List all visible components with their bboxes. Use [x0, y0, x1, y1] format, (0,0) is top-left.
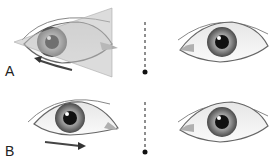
fixation-dot: [143, 150, 148, 155]
arrow-right-icon: [78, 142, 86, 150]
panel-b-left-eye: [28, 100, 118, 150]
fixation-dot: [143, 70, 148, 75]
panel-a-left-eye: [14, 8, 118, 77]
panel-a-right-eye: [178, 22, 268, 62]
panel-b-right-eye: [178, 102, 268, 142]
midline-b: [143, 102, 148, 155]
eye-movement-diagram: [0, 0, 276, 163]
panel-label-b: B: [5, 144, 14, 158]
panel-label-a: A: [5, 64, 14, 78]
midline-a: [143, 22, 148, 75]
